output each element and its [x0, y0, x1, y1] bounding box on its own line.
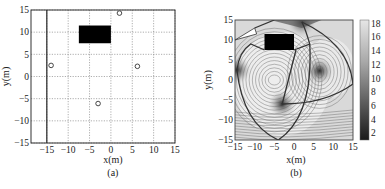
y-axis-label: y(m)	[0, 67, 12, 86]
colorbar	[360, 20, 369, 140]
colorbar-tick-label: 2	[371, 128, 376, 138]
colorbar-tick-label: 8	[371, 87, 376, 97]
y-tick-label: −10	[218, 115, 233, 125]
y-tick-label: 10	[20, 27, 30, 37]
anchor-marker	[117, 11, 122, 16]
colorbar-tick-label: 4	[371, 115, 376, 125]
panel-caption: (a)	[107, 167, 118, 179]
y-tick-label: −10	[14, 116, 29, 126]
x-tick-label: 5	[311, 142, 316, 152]
y-tick-label: 10	[224, 35, 234, 45]
anchor-marker	[49, 63, 54, 68]
y-tick-label: 5	[228, 55, 233, 65]
x-tick-label: 10	[329, 142, 339, 152]
y-tick-label: 15	[20, 5, 30, 15]
colorbar-tick-label: 10	[371, 74, 381, 84]
x-axis-label: x(m)	[103, 154, 122, 166]
y-tick-label: −5	[223, 95, 233, 105]
anchor-marker	[96, 101, 101, 106]
obstacle-rect	[265, 34, 295, 50]
colorbar-tick-label: 18	[371, 19, 381, 29]
colorbar-tick-label: 12	[371, 60, 381, 70]
x-tick-label: 15	[170, 145, 180, 155]
y-axis-label: y(m)	[202, 70, 214, 89]
x-tick-label: −5	[269, 142, 279, 152]
y-tick-label: −5	[19, 94, 29, 104]
panel-caption: (b)	[290, 167, 302, 179]
x-axis-label: x(m)	[286, 154, 305, 166]
x-tick-label: −5	[84, 145, 94, 155]
y-tick-label: −15	[218, 135, 233, 145]
y-tick-label: 5	[24, 50, 29, 60]
x-tick-label: −10	[61, 145, 76, 155]
x-tick-label: 5	[130, 145, 135, 155]
colorbar-tick-label: 14	[371, 46, 381, 56]
x-tick-label: 15	[348, 142, 358, 152]
anchor-marker	[135, 64, 140, 69]
x-tick-label: −10	[247, 142, 262, 152]
y-tick-label: 0	[228, 75, 233, 85]
colorbar-tick-label: 16	[371, 32, 381, 42]
x-tick-label: 0	[292, 142, 297, 152]
x-tick-label: 10	[149, 145, 159, 155]
obstacle-rect	[79, 26, 111, 44]
y-tick-label: −15	[14, 138, 29, 148]
contour-plot-b: 24681012141618−15−10−5051015−15−10−50510…	[190, 0, 385, 189]
contour-field	[223, 8, 354, 140]
x-tick-label: −15	[39, 145, 54, 155]
y-tick-label: 15	[224, 15, 234, 25]
colorbar-tick-label: 6	[371, 101, 376, 111]
scatter-plot-a: −15−10−5051015−15−10−5051015x(m)y(m)(a)	[0, 0, 192, 189]
y-tick-label: 0	[24, 72, 29, 82]
